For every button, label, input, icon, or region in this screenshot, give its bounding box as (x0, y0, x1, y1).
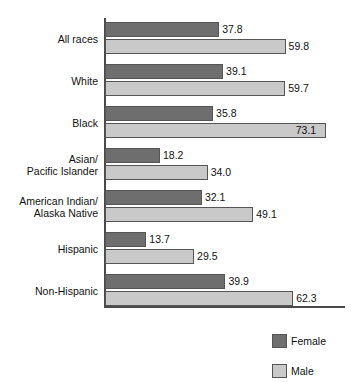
bar-value-label: 59.7 (288, 81, 308, 96)
bar-value-label: 59.8 (289, 39, 309, 54)
bar-value-label: 73.1 (296, 123, 316, 138)
bar-male (105, 81, 285, 96)
bar-male (105, 291, 293, 306)
bar-male (105, 39, 286, 54)
bar-value-label: 34.0 (211, 165, 231, 180)
bar-female (105, 148, 160, 163)
bar-value-label: 35.8 (216, 106, 236, 121)
legend-item-female: Female (272, 332, 353, 350)
bar-female (105, 22, 219, 37)
bar-male (105, 165, 208, 180)
bar-value-label: 32.1 (205, 190, 225, 205)
category-label: American Indian/ Alaska Native (0, 195, 98, 219)
bar-value-label: 39.1 (226, 64, 246, 79)
legend-swatch-female-icon (272, 334, 287, 348)
bar-value-label: 39.9 (228, 274, 248, 289)
bar-male (105, 123, 326, 138)
category-label: Asian/ Pacific Islander (0, 153, 98, 177)
bar-female (105, 274, 225, 289)
bar-value-label: 37.8 (222, 22, 242, 37)
legend-label-female: Female (291, 334, 326, 348)
bar-value-label: 62.3 (296, 291, 316, 306)
category-label: All races (0, 33, 98, 45)
bar-value-label: 29.5 (197, 249, 217, 264)
x-axis-line (104, 306, 345, 308)
bar-male (105, 207, 253, 222)
bar-male (105, 249, 194, 264)
category-label: Black (0, 117, 98, 129)
bar-female (105, 64, 223, 79)
bar-female (105, 106, 213, 121)
category-label: White (0, 75, 98, 87)
category-label: Hispanic (0, 243, 98, 255)
legend-item-male: Male (272, 362, 353, 380)
bar-female (105, 190, 202, 205)
legend-swatch-male-icon (272, 364, 287, 378)
bar-value-label: 49.1 (256, 207, 276, 222)
bar-value-label: 18.2 (163, 148, 183, 163)
chart-legend: Female Male (272, 332, 353, 382)
bar-value-label: 13.7 (149, 232, 169, 247)
legend-label-male: Male (291, 364, 314, 378)
y-axis-line (104, 18, 106, 308)
category-label: Non-Hispanic (0, 285, 98, 297)
bar-female (105, 232, 146, 247)
